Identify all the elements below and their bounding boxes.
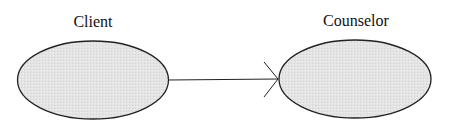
counselor-label: Counselor — [323, 12, 389, 29]
client-ellipse — [18, 41, 169, 119]
counselor-ellipse — [279, 40, 431, 118]
edge-client-to-counselor — [169, 62, 279, 97]
node-counselor: Counselor — [279, 12, 431, 118]
client-label: Client — [73, 13, 113, 30]
node-client: Client — [18, 13, 169, 119]
arrow-line — [169, 79, 279, 80]
diagram-canvas: Client Counselor — [0, 0, 450, 127]
